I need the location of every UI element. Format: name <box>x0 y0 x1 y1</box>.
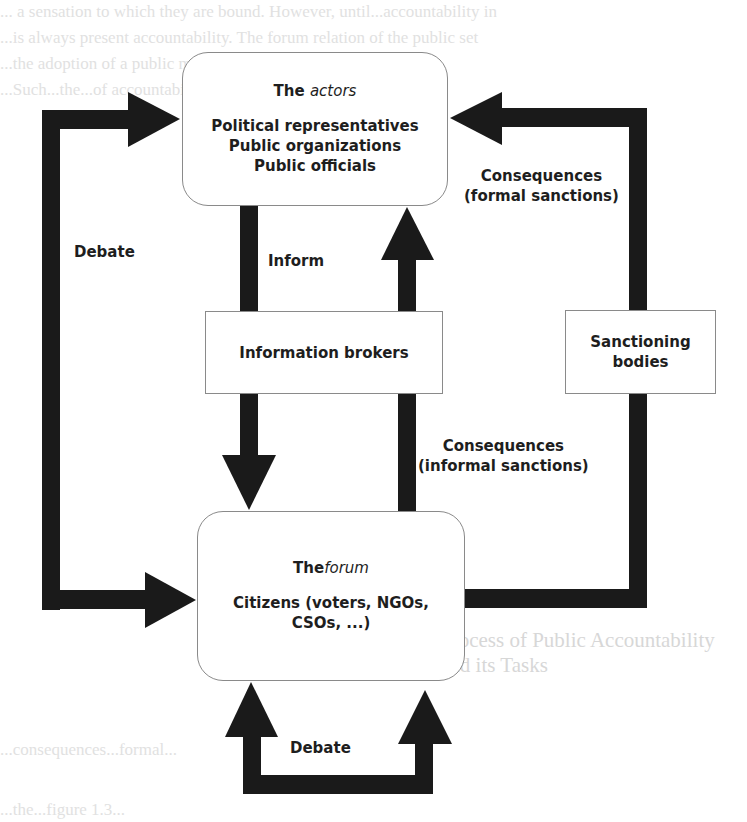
informal-consequences-line: Consequences <box>418 436 589 456</box>
debate-left-arrow-icon <box>42 92 196 628</box>
actors-title-prefix: The <box>274 82 305 100</box>
forum-title-prefix: The <box>293 559 324 577</box>
forum-line: Citizens (voters, NGOs, <box>233 593 429 613</box>
actors-title-italic: actors <box>310 82 356 100</box>
actors-title: The actors <box>274 82 357 100</box>
formal-consequences-label: Consequences (formal sanctions) <box>464 166 619 206</box>
forum-node: Theforum Citizens (voters, NGOs, CSOs, .… <box>197 511 465 681</box>
sanctioning-bodies-line: bodies <box>612 352 668 372</box>
forum-title-italic: forum <box>324 559 369 577</box>
informal-consequences-label: Consequences (informal sanctions) <box>418 436 589 476</box>
actors-line: Public officials <box>254 156 376 176</box>
actors-line: Public organizations <box>229 136 401 156</box>
debate-bottom-label: Debate <box>290 738 351 758</box>
actors-line: Political representatives <box>211 116 418 136</box>
information-brokers-node: Information brokers <box>205 311 443 394</box>
informal-consequences-line: (informal sanctions) <box>418 456 589 476</box>
formal-consequences-line: (formal sanctions) <box>464 186 619 206</box>
debate-left-label: Debate <box>74 242 135 262</box>
information-brokers-label: Information brokers <box>239 343 408 363</box>
inform-label: Inform <box>268 251 324 271</box>
sanctioning-bodies-node: Sanctioning bodies <box>565 310 716 394</box>
formal-consequences-line: Consequences <box>464 166 619 186</box>
sanctioning-bodies-line: Sanctioning <box>590 332 690 352</box>
actors-node: The actors Political representatives Pub… <box>182 52 448 206</box>
forum-line: CSOs, ...) <box>292 613 371 633</box>
forum-title: Theforum <box>293 559 369 577</box>
